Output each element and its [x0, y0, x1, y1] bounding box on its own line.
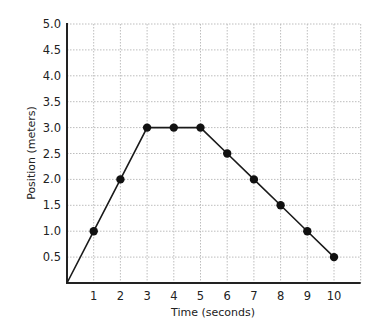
- y-tick-label: 2.0: [43, 172, 61, 186]
- x-tick-label: 6: [224, 289, 231, 303]
- data-point-marker: [303, 227, 311, 235]
- x-tick-label: 7: [250, 289, 257, 303]
- data-point-marker: [276, 201, 284, 209]
- y-axis-title: Position (meters): [25, 106, 38, 200]
- data-point-marker: [250, 175, 258, 183]
- y-tick-label: 5.0: [43, 17, 61, 31]
- x-tick-label: 10: [327, 289, 342, 303]
- data-point-marker: [330, 253, 338, 261]
- data-series: [67, 123, 338, 283]
- data-point-marker: [223, 149, 231, 157]
- x-tick-label: 3: [143, 289, 150, 303]
- x-tick-label: 4: [170, 289, 177, 303]
- data-point-marker: [116, 175, 124, 183]
- position-time-chart: 0.51.01.52.02.53.03.54.04.55.0 123456789…: [0, 0, 381, 330]
- y-tick-label: 1.5: [43, 198, 61, 212]
- x-tick-label: 5: [197, 289, 204, 303]
- y-tick-label: 0.5: [43, 250, 61, 264]
- x-axis-title: Time (seconds): [170, 306, 255, 319]
- y-tick-label: 3.5: [43, 95, 61, 109]
- x-tick-label: 2: [117, 289, 124, 303]
- x-tick-label: 1: [90, 289, 97, 303]
- y-tick-label: 3.0: [43, 121, 61, 135]
- data-point-marker: [143, 123, 151, 131]
- y-tick-label: 1.0: [43, 224, 61, 238]
- data-point-marker: [196, 123, 204, 131]
- x-tick-label: 8: [277, 289, 284, 303]
- data-point-marker: [170, 123, 178, 131]
- y-tick-labels: 0.51.01.52.02.53.03.54.04.55.0: [43, 17, 61, 264]
- y-tick-label: 2.5: [43, 147, 61, 161]
- data-point-marker: [90, 227, 98, 235]
- grid-lines: [67, 24, 361, 283]
- y-tick-label: 4.5: [43, 43, 61, 57]
- x-tick-labels: 12345678910: [90, 289, 341, 303]
- x-tick-label: 9: [304, 289, 311, 303]
- y-tick-label: 4.0: [43, 69, 61, 83]
